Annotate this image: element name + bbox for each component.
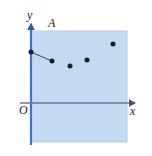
data-point <box>29 50 34 55</box>
shaded-region-A <box>31 31 127 142</box>
data-point <box>85 58 90 63</box>
figure-container: y A O x <box>0 0 152 156</box>
y-axis-label: y <box>27 9 32 21</box>
y-axis-arrow-icon <box>27 23 35 31</box>
x-axis-label: x <box>130 105 135 117</box>
data-point <box>50 59 55 64</box>
scatter-plot-svg <box>0 0 152 156</box>
origin-label: O <box>19 104 28 116</box>
region-label-A: A <box>48 17 55 29</box>
data-point <box>68 64 73 69</box>
data-point <box>111 42 116 47</box>
